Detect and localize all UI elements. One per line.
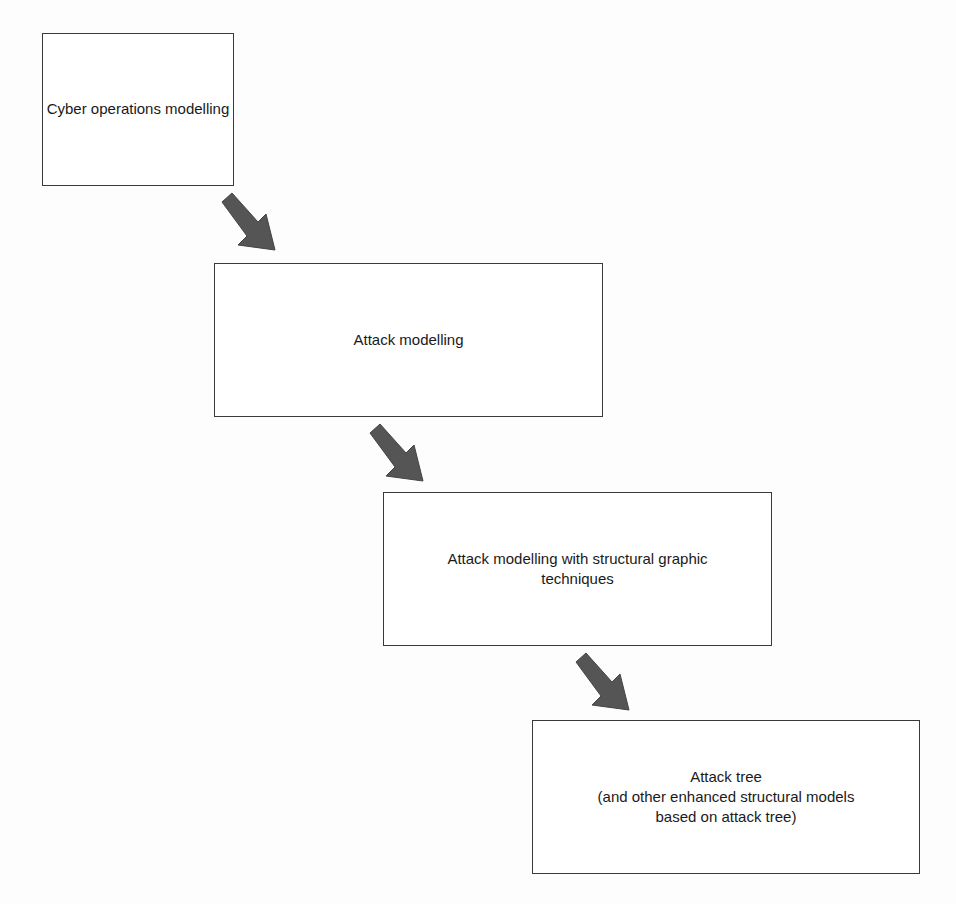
node-label: Attack modelling: [353, 330, 463, 350]
node-attack-modelling: Attack modelling: [214, 263, 603, 417]
node-label: Attack tree (and other enhanced structur…: [598, 767, 855, 828]
arrow-down-right-icon: [218, 190, 280, 254]
node-label: Cyber operations modelling: [47, 99, 230, 119]
node-attack-tree: Attack tree (and other enhanced structur…: [532, 720, 920, 874]
background-ghost-text: [300, 8, 305, 30]
node-label: Attack modelling with structural graphic…: [447, 549, 707, 590]
node-cyber-operations-modelling: Cyber operations modelling: [42, 33, 234, 186]
arrow-down-right-icon: [572, 650, 634, 714]
arrow-down-right-icon: [366, 421, 428, 485]
node-attack-modelling-structural: Attack modelling with structural graphic…: [383, 492, 772, 646]
